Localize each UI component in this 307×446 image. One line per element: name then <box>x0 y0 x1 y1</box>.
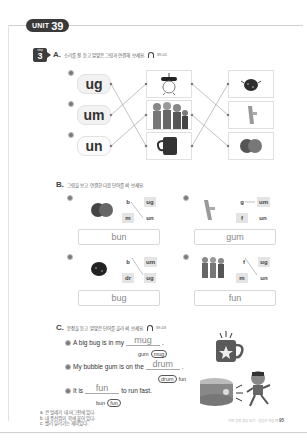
gum-icon <box>200 198 218 222</box>
sentence-end: to run fast. <box>121 387 152 394</box>
number-a-icon <box>68 70 74 76</box>
choice-option[interactable]: fun <box>179 376 187 382</box>
choices-b: drum fun <box>158 375 186 383</box>
onset-cell[interactable]: f <box>236 213 248 223</box>
onset-cell[interactable]: m <box>236 273 248 283</box>
rime-cell[interactable]: um <box>144 257 157 267</box>
section-b-title: B. 그림을 보고 연결한 다음 단어를 써 보세요. <box>56 180 144 189</box>
answer-blank[interactable]: drum <box>146 360 180 370</box>
choice-option[interactable]: gum <box>138 351 149 357</box>
sentence-c: It is fun to run fast. <box>65 384 152 394</box>
headphone-icon[interactable] <box>147 325 153 331</box>
section-instruction: 그림을 보고 연결한 다음 단어를 써 보세요. <box>67 182 144 188</box>
mug-icon <box>156 135 182 157</box>
sentence-b: My bubble gum is on the drum . <box>65 360 184 370</box>
running-boy-icon <box>247 371 270 406</box>
section-c-title: C. 문장을 듣고 알맞은 단어를 골라 써 보세요. 39-03 <box>56 323 166 332</box>
translations: a. 큰 벌레가 내 머그잔에 있다. b. 내 풍선껌이 북에 붙어 있다. … <box>40 410 95 427</box>
unit-badge: UNIT 39 <box>26 19 69 32</box>
translation-c: c. 빨리 달리기는 재미있다. <box>40 421 95 427</box>
number-a-icon <box>65 340 71 346</box>
choice-option[interactable]: bun <box>96 400 105 406</box>
choice-option-selected[interactable]: fun <box>107 399 121 407</box>
number-c-icon <box>67 254 73 260</box>
syllable-un[interactable]: un <box>77 136 111 156</box>
sentence-text: A big bug is in my <box>73 339 124 346</box>
syllable-um[interactable]: um <box>77 105 111 125</box>
step-arrow-icon <box>47 52 51 58</box>
bun-icon <box>239 137 263 155</box>
kids-icon <box>200 256 230 278</box>
section-letter: A. <box>53 50 61 59</box>
rime-cell[interactable]: ug <box>258 257 270 267</box>
gum-picture[interactable] <box>228 101 274 129</box>
onset-cell[interactable]: b <box>122 257 134 267</box>
headphone-icon[interactable] <box>148 52 154 58</box>
section-letter: C. <box>56 323 64 332</box>
answer-box-gum[interactable]: gum <box>194 229 276 245</box>
sentence-end: . <box>162 339 164 346</box>
ladybug-icon <box>241 75 261 93</box>
footer-text: 이번 장의 정답 보기 · 정답과 해설 쪽 <box>228 419 278 423</box>
mug-picture[interactable] <box>146 132 192 160</box>
rime-cell[interactable]: ug <box>144 273 156 283</box>
rime-cell[interactable]: ug <box>144 197 156 207</box>
rime-cell[interactable]: um <box>257 197 270 207</box>
bun-picture[interactable] <box>228 132 274 160</box>
mug-star-icon <box>216 331 242 362</box>
answer-box-bug[interactable]: bug <box>78 290 160 306</box>
choices-a: gum mug <box>138 350 167 358</box>
rime-cell[interactable]: un <box>257 213 269 223</box>
choice-option-selected[interactable]: drum <box>158 375 177 383</box>
rime-cell[interactable]: un <box>258 273 270 283</box>
number-c-icon <box>65 388 71 394</box>
syllable-ug[interactable]: ug <box>77 74 111 94</box>
number-d-icon <box>183 254 189 260</box>
choices-c: bun fun <box>96 399 121 407</box>
number-b-icon <box>183 195 189 201</box>
unit-number: 39 <box>51 20 63 32</box>
sentence-text: My bubble gum is on the <box>73 363 144 370</box>
step-badge: step 3 <box>33 48 47 62</box>
onset-cell[interactable]: m <box>122 213 134 223</box>
unit-label: UNIT <box>32 22 49 29</box>
illustration <box>200 330 300 410</box>
onset-cell[interactable]: g <box>236 197 248 207</box>
drum-picture[interactable] <box>146 70 192 98</box>
drum-icon <box>200 378 243 406</box>
page-frame-bottom <box>0 432 307 433</box>
section-letter: B. <box>56 180 64 189</box>
number-a-icon <box>67 195 73 201</box>
answer-box-fun[interactable]: fun <box>194 290 276 306</box>
footer: 이번 장의 정답 보기 · 정답과 해설 쪽 95 <box>228 418 284 423</box>
sentence-text: It is <box>73 387 83 394</box>
track-number: 39-01 <box>157 52 167 57</box>
onset-cell[interactable]: dr <box>122 273 134 283</box>
number-b-icon <box>65 364 71 370</box>
answer-blank[interactable]: mug <box>126 336 160 346</box>
page-frame-left <box>8 25 9 421</box>
drum-icon <box>156 73 182 95</box>
translation-a: a. 큰 벌레가 내 머그잔에 있다. <box>40 410 95 416</box>
step-number: 3 <box>37 52 42 61</box>
ladybug-picture[interactable] <box>228 70 274 98</box>
page-number: 95 <box>279 418 284 423</box>
onset-cell[interactable]: f <box>238 257 250 267</box>
rime-cell[interactable]: un <box>144 213 156 223</box>
number-b-icon <box>68 101 74 107</box>
sentence-a: A big bug is in my mug . <box>65 336 164 346</box>
ladybug-icon <box>88 258 110 278</box>
section-a-title: A. 소리를 잘 듣고 알맞은 그림과 연결해 보세요. 39-01 <box>53 50 167 59</box>
answer-box-bun[interactable]: bun <box>78 229 160 245</box>
track-number: 39-03 <box>156 325 166 330</box>
kids-icon <box>149 101 189 129</box>
bun-icon <box>90 202 114 218</box>
kids-fun-picture[interactable] <box>146 100 192 130</box>
number-c-icon <box>68 132 74 138</box>
section-instruction: 문장을 듣고 알맞은 단어를 골라 써 보세요. <box>67 325 144 331</box>
sentence-end: . <box>182 363 184 370</box>
section-instruction: 소리를 잘 듣고 알맞은 그림과 연결해 보세요. <box>64 52 145 58</box>
onset-cell[interactable]: b <box>122 197 134 207</box>
answer-blank[interactable]: fun <box>85 384 119 394</box>
choice-option-selected[interactable]: mug <box>151 350 168 358</box>
